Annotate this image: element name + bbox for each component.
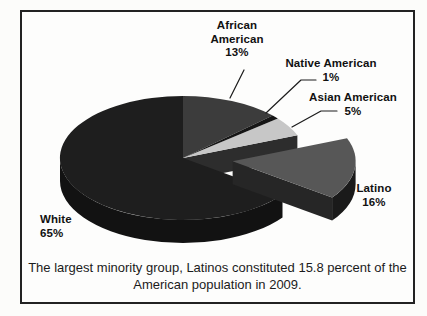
slice-percent: 65% [40,227,110,241]
caption-line-2: American population in 2009. [24,277,411,294]
figure-caption: The largest minority group, Latinos cons… [24,260,411,293]
slice-percent: 16% [346,196,402,210]
slice-label-text: Asian American [309,91,397,103]
slice-percent: 1% [272,71,390,85]
slice-label-text: Latino [356,182,391,194]
slice-percent: 5% [294,105,412,119]
slice-label-african-american: African American 13% [196,19,278,60]
figure-page: African American 13% Native American 1% … [0,0,427,316]
slice-label-asian-american: Asian American 5% [294,91,412,118]
caption-line-1: The largest minority group, Latinos cons… [24,260,411,277]
slice-label-white: White 65% [40,213,110,240]
slice-label-text: White [40,213,72,225]
slice-label-text: Native American [285,57,376,69]
slice-label-native-american: Native American 1% [272,57,390,84]
leader-line-african-american [230,70,244,98]
slice-label-latino: Latino 16% [346,182,402,209]
slice-label-text: African American [210,19,263,45]
slice-percent: 13% [196,46,278,60]
